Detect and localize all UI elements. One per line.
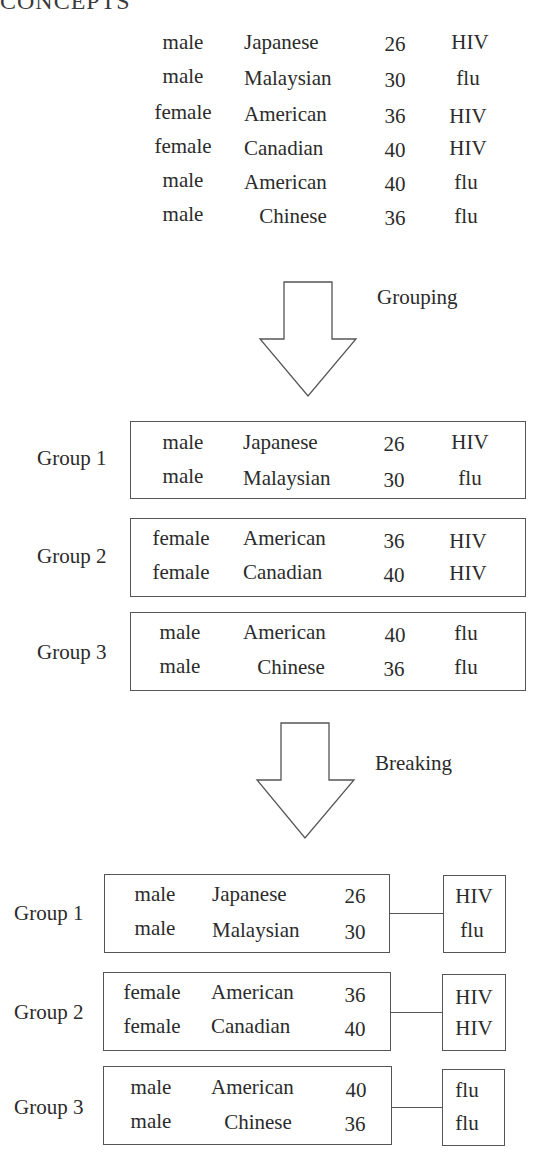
cell-gender: male (160, 620, 201, 644)
cell-nationality: Canadian (211, 1014, 290, 1038)
cell-age: 40 (346, 1078, 367, 1102)
connector-line (392, 1107, 442, 1108)
cell-disease: flu (458, 466, 481, 490)
cell-gender: female (152, 526, 209, 550)
cell-age: 36 (345, 983, 366, 1007)
cell-gender: male (131, 1109, 172, 1133)
cell-nationality: Canadian (243, 560, 322, 584)
cell-gender: female (152, 560, 209, 584)
cell-nationality: American (211, 1075, 294, 1099)
cell-age: 30 (384, 468, 405, 492)
cell-nationality: Chinese (224, 1110, 292, 1134)
cell-disease: HIV (449, 561, 486, 585)
cell-gender: male (131, 1075, 172, 1099)
connector-line (391, 1012, 442, 1013)
cell-disease: flu (454, 655, 477, 679)
cell-age: 40 (385, 623, 406, 647)
group-label: Group 2 (37, 544, 106, 568)
cell-disease: HIV (451, 430, 488, 454)
connector-line (390, 913, 443, 914)
cell-nationality: American (243, 526, 326, 550)
cell-disease: flu (460, 918, 483, 942)
cell-nationality: Chinese (257, 655, 325, 679)
cell-age: 26 (384, 432, 405, 456)
cell-age: 36 (384, 657, 405, 681)
step-label-grouping: Grouping (377, 285, 458, 309)
cell-age: 40 (345, 1017, 366, 1041)
cell-nationality: Japanese (212, 882, 287, 906)
cell-nationality: American (243, 620, 326, 644)
cell-nationality: Japanese (243, 430, 318, 454)
cell-gender: female (123, 980, 180, 1004)
cell-age: 40 (384, 563, 405, 587)
grouping-arrow-icon (260, 282, 356, 396)
breaking-arrow-icon (257, 723, 354, 838)
cell-disease: flu (455, 1078, 478, 1102)
cell-gender: male (163, 464, 204, 488)
cell-disease: flu (455, 1111, 478, 1135)
cell-gender: male (135, 916, 176, 940)
cell-disease: HIV (449, 529, 486, 553)
group-label: Group 1 (14, 901, 83, 925)
cell-gender: male (135, 882, 176, 906)
cell-disease: flu (454, 621, 477, 645)
cell-nationality: Malaysian (212, 918, 299, 942)
cell-disease: HIV (455, 985, 492, 1009)
step-label-breaking: Breaking (375, 751, 452, 775)
cell-gender: male (160, 654, 201, 678)
group-label: Group 2 (14, 1000, 83, 1024)
cell-gender: female (123, 1014, 180, 1038)
cell-disease: HIV (455, 884, 492, 908)
cell-age: 36 (345, 1112, 366, 1136)
cell-nationality: American (211, 980, 294, 1004)
cell-disease: HIV (455, 1016, 492, 1040)
cell-gender: male (163, 430, 204, 454)
group-label: Group 3 (37, 640, 106, 664)
group-label: Group 3 (14, 1095, 83, 1119)
cell-nationality: Malaysian (243, 466, 330, 490)
group-label: Group 1 (37, 446, 106, 470)
cell-age: 30 (345, 920, 366, 944)
cell-age: 36 (384, 529, 405, 553)
cell-age: 26 (345, 884, 366, 908)
